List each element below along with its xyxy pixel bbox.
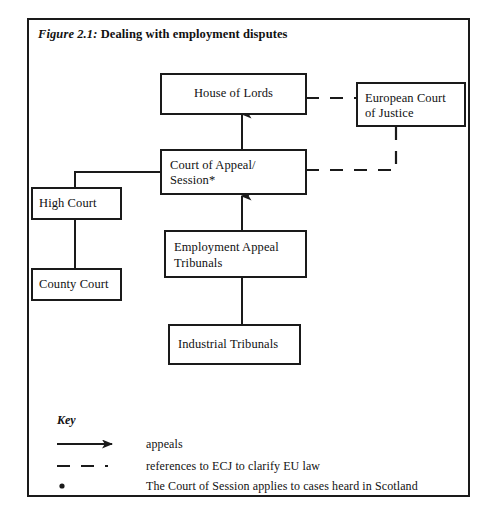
node-county-court-label: County Court: [39, 277, 109, 291]
node-industrial-tribunals[interactable]: Industrial Tribunals: [169, 325, 300, 364]
legend-heading: Key: [56, 413, 76, 427]
figure-page: Figure 2.1: Dealing with employment disp…: [0, 0, 498, 521]
court-hierarchy-diagram: House of Lords European Court of Justice…: [0, 0, 498, 521]
edge-dashed-court-of-appeal-to-ecj: [306, 126, 396, 170]
legend-label-court-of-session: The Court of Session applies to cases he…: [146, 479, 418, 493]
node-ecj-label-line2: of Justice: [365, 106, 414, 120]
node-house-of-lords-label: House of Lords: [194, 86, 273, 100]
node-county-court[interactable]: County Court: [32, 269, 121, 300]
legend-label-ecj-references: references to ECJ to clarify EU law: [146, 459, 320, 473]
node-house-of-lords[interactable]: House of Lords: [161, 74, 306, 114]
node-european-court-of-justice[interactable]: European Court of Justice: [357, 83, 465, 126]
node-employment-appeal-tribunals[interactable]: Employment Appeal Tribunals: [165, 231, 306, 277]
node-high-court[interactable]: High Court: [32, 188, 121, 219]
node-high-court-label: High Court: [39, 196, 97, 210]
node-ecj-label-line1: European Court: [365, 91, 446, 105]
node-court-of-appeal-label-line2: Session*: [170, 173, 215, 187]
node-court-of-appeal[interactable]: Court of Appeal/ Session*: [161, 150, 306, 194]
node-court-of-appeal-label-line1: Court of Appeal/: [170, 158, 256, 172]
node-industrial-tribunals-label: Industrial Tribunals: [178, 337, 278, 351]
node-employment-appeal-label-line1: Employment Appeal: [174, 240, 279, 254]
legend: Key appeals references to ECJ to clarify…: [56, 413, 418, 493]
legend-asterisk-dot-icon: [59, 483, 64, 488]
legend-label-appeals: appeals: [146, 437, 183, 451]
node-employment-appeal-label-line2: Tribunals: [174, 256, 222, 270]
